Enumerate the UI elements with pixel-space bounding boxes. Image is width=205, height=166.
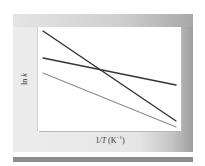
steep-dark-line <box>43 31 176 121</box>
x-axis-label: 1/T (K−1) <box>80 135 140 147</box>
y-axis-label: ln k <box>20 67 32 91</box>
